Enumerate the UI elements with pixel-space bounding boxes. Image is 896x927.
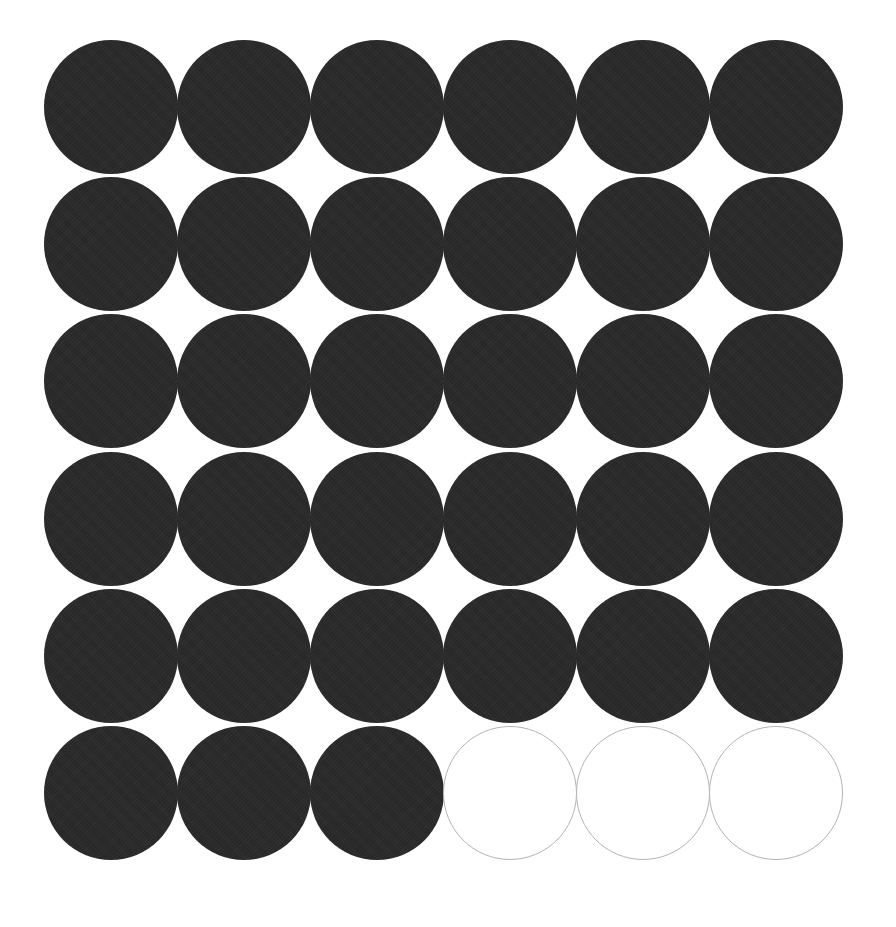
empty-circle xyxy=(709,726,843,860)
circle-grid xyxy=(44,38,842,862)
grid-cell xyxy=(177,175,310,312)
filled-circle xyxy=(310,177,444,311)
diagram-canvas xyxy=(0,0,896,927)
grid-cell xyxy=(709,313,842,450)
grid-cell xyxy=(310,313,443,450)
filled-circle xyxy=(310,40,444,174)
filled-circle xyxy=(44,314,178,448)
grid-cell xyxy=(443,38,576,175)
grid-cell xyxy=(576,725,709,862)
grid-cell xyxy=(177,38,310,175)
filled-circle xyxy=(44,452,178,586)
grid-cell xyxy=(44,450,177,587)
filled-circle xyxy=(576,589,710,723)
grid-cell xyxy=(576,313,709,450)
grid-cell xyxy=(709,38,842,175)
grid-cell xyxy=(443,587,576,724)
filled-circle xyxy=(709,177,843,311)
filled-circle xyxy=(177,452,311,586)
filled-circle xyxy=(310,589,444,723)
grid-cell xyxy=(310,450,443,587)
filled-circle xyxy=(709,589,843,723)
filled-circle xyxy=(443,452,577,586)
filled-circle xyxy=(709,452,843,586)
grid-cell xyxy=(310,587,443,724)
filled-circle xyxy=(310,726,444,860)
filled-circle xyxy=(44,589,178,723)
empty-circle xyxy=(443,726,577,860)
grid-cell xyxy=(443,175,576,312)
grid-cell xyxy=(177,725,310,862)
filled-circle xyxy=(177,314,311,448)
filled-circle xyxy=(310,314,444,448)
grid-cell xyxy=(44,725,177,862)
grid-cell xyxy=(310,725,443,862)
grid-cell xyxy=(310,175,443,312)
filled-circle xyxy=(310,452,444,586)
filled-circle xyxy=(443,589,577,723)
grid-cell xyxy=(44,38,177,175)
grid-cell xyxy=(709,725,842,862)
grid-cell xyxy=(177,587,310,724)
grid-cell xyxy=(709,175,842,312)
grid-cell xyxy=(310,38,443,175)
filled-circle xyxy=(177,40,311,174)
grid-cell xyxy=(443,725,576,862)
grid-cell xyxy=(443,450,576,587)
filled-circle xyxy=(177,589,311,723)
grid-cell xyxy=(177,313,310,450)
filled-circle xyxy=(576,177,710,311)
grid-cell xyxy=(709,587,842,724)
grid-cell xyxy=(44,587,177,724)
empty-circle xyxy=(576,726,710,860)
grid-cell xyxy=(443,313,576,450)
filled-circle xyxy=(44,40,178,174)
grid-cell xyxy=(709,450,842,587)
grid-cell xyxy=(44,313,177,450)
filled-circle xyxy=(443,40,577,174)
filled-circle xyxy=(576,314,710,448)
filled-circle xyxy=(44,726,178,860)
filled-circle xyxy=(177,726,311,860)
filled-circle xyxy=(709,40,843,174)
grid-cell xyxy=(576,450,709,587)
grid-cell xyxy=(576,587,709,724)
filled-circle xyxy=(576,40,710,174)
grid-cell xyxy=(44,175,177,312)
filled-circle xyxy=(443,314,577,448)
grid-cell xyxy=(576,38,709,175)
filled-circle xyxy=(709,314,843,448)
grid-cell xyxy=(177,450,310,587)
filled-circle xyxy=(576,452,710,586)
filled-circle xyxy=(443,177,577,311)
filled-circle xyxy=(44,177,178,311)
grid-cell xyxy=(576,175,709,312)
filled-circle xyxy=(177,177,311,311)
